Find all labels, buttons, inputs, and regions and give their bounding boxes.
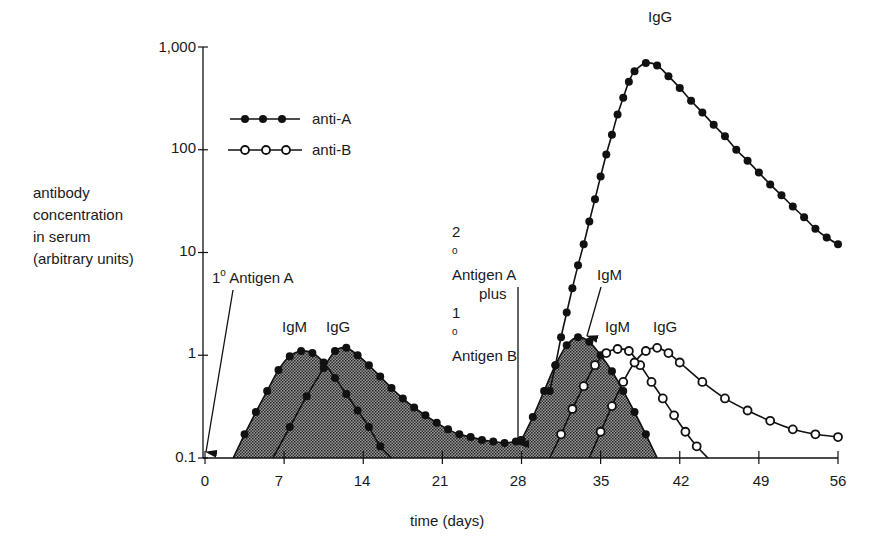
open-circle-marker [834,433,842,441]
filled-circle-marker [608,367,616,375]
open-circle-marker [602,349,610,357]
filled-circle-marker [568,284,576,292]
filled-circle-marker [433,419,441,427]
filled-circle-marker [619,387,627,395]
x-tick-label: 56 [818,472,858,489]
filled-circle-marker [263,387,271,395]
filled-circle-marker [557,333,565,341]
annotation-text: Antigen A [226,269,294,286]
x-tick-label: 49 [741,472,781,489]
filled-circle-marker [631,67,639,75]
annotation-secondary-antigen: 2o Antigen A plus 1o Antigen B [452,222,517,365]
filled-circle-marker [365,423,373,431]
x-tick-label: 14 [342,472,382,489]
legend-label-anti-b: anti-B [312,141,351,159]
open-circle-marker [789,425,797,433]
filled-circle-marker [478,436,486,444]
x-tick-label: 0 [185,472,225,489]
filled-circle-marker [721,132,729,140]
open-circle-marker [608,402,616,410]
filled-circle-marker [286,423,294,431]
legend-anti-b-swatch [228,146,302,154]
annotation-line: plus [452,284,517,303]
open-circle-marker [698,378,706,386]
open-circle-marker [766,417,774,425]
filled-circle-marker [602,150,610,158]
open-circle-marker [625,347,633,355]
filled-circle-marker [342,344,350,352]
annotation-text: Antigen B [452,346,517,365]
filled-circle-marker [399,394,407,402]
open-circle-marker [619,378,627,386]
x-tick-label: 42 [661,472,701,489]
filled-circle-marker [331,347,339,355]
filled-circle-marker [546,387,554,395]
annotation-line: 2o Antigen A [452,222,517,284]
filled-circle-marker [320,364,328,372]
filled-circle-marker [800,213,808,221]
filled-circle-marker [421,411,429,419]
degree-superscript: o [452,245,458,256]
annotation-igg-primary: IgG [326,318,350,336]
annotation-number: 1 [452,303,517,322]
filled-circle-marker [331,374,339,382]
open-circle-marker [557,430,565,438]
open-circle-marker [614,345,622,353]
filled-circle-marker [698,109,706,117]
legend-label-anti-a: anti-A [312,110,351,128]
filled-circle-marker [563,341,571,349]
y-tick-label: 100 [136,139,196,156]
filled-circle-marker [631,408,639,416]
x-tick-label: 28 [498,472,538,489]
filled-circle-marker [489,437,497,445]
filled-circle-marker [518,436,526,444]
filled-circle-marker [585,218,593,226]
filled-circle-marker [308,349,316,357]
filled-circle-marker [687,97,695,105]
filled-circle-marker [551,361,559,369]
filled-circle-marker [789,203,797,211]
filled-circle-marker [777,191,785,199]
filled-circle-marker [354,406,362,414]
open-circle-marker [721,394,729,402]
filled-circle-marker [529,413,537,421]
y-tick-label: 1,000 [136,38,196,55]
open-circle-marker [744,406,752,414]
filled-circle-marker [286,352,294,360]
filled-circle-marker [376,442,384,450]
filled-circle-marker [303,392,311,400]
filled-circle-marker [455,430,463,438]
filled-circle-marker [342,390,350,398]
filled-circle-marker [597,172,605,180]
degree-superscript: o [452,326,458,337]
open-circle-marker [681,428,689,436]
filled-circle-marker [388,384,396,392]
annotation-igm-secondary-a: IgM [597,266,622,284]
filled-circle-marker [410,404,418,412]
filled-circle-marker [823,233,831,241]
shaded-area-layer [233,337,657,458]
open-circle-marker [597,428,605,436]
filled-circle-marker [619,94,627,102]
filled-circle-marker [354,351,362,359]
filled-circle-marker [642,59,650,67]
filled-circle-marker [732,146,740,154]
y-axis-label-line: antibody [33,182,203,204]
arrow-primary-antigen-a [206,290,233,452]
filled-circle-marker [444,425,452,433]
open-circle-marker [811,430,819,438]
annotation-igm-primary: IgM [282,318,307,336]
annotation-number: 2 [452,222,517,241]
annotation-primary-antigen-a: 1o Antigen A [212,264,293,287]
filled-circle-marker [625,78,633,86]
filled-circle-marker [608,131,616,139]
filled-circle-marker [653,62,661,70]
y-tick-label: 10 [136,242,196,259]
open-circle-marker [693,442,701,450]
filled-circle-marker [274,366,282,374]
annotation-text: Antigen A [452,265,517,284]
filled-circle-marker [501,439,509,447]
filled-circle-marker [710,121,718,129]
x-tick-label: 7 [259,472,299,489]
filled-circle-marker [467,433,475,441]
